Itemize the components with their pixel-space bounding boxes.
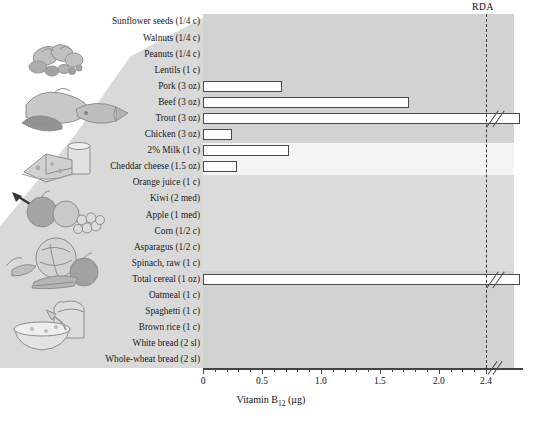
row-baseline	[203, 60, 514, 61]
row-baseline	[203, 237, 514, 238]
category-label: Peanuts (1/4 c)	[4, 50, 200, 59]
category-label: Corn (1/2 c)	[4, 227, 200, 236]
category-label: Brown rice (1 c)	[4, 323, 200, 332]
row-baseline	[203, 269, 514, 270]
category-label: Whole-wheat bread (2 sl)	[4, 355, 200, 364]
row-baseline	[203, 301, 514, 302]
category-label: Kiwi (2 med)	[4, 194, 200, 203]
tick-minor	[462, 368, 463, 372]
category-label: Asparagus (1/2 c)	[4, 243, 200, 252]
row-baseline	[203, 28, 514, 29]
tick-major	[321, 368, 322, 374]
category-label: Walnuts (1/4 c)	[4, 34, 200, 43]
tick-label: 1.5	[374, 376, 386, 386]
tick-major	[262, 368, 263, 374]
category-label: Spaghetti (1 c)	[4, 307, 200, 316]
vitamin-b12-food-chart: RDA Sunflower seeds (1/4 c)Walnuts (1/4 …	[0, 0, 542, 421]
tick-major	[203, 368, 204, 374]
bar-pork-3-oz	[203, 81, 282, 92]
tick-minor	[250, 368, 251, 372]
tick-minor	[415, 368, 416, 372]
band-grains	[203, 271, 514, 368]
category-label: Beef (3 oz)	[4, 98, 200, 107]
band-nuts-and-legumes	[203, 14, 514, 78]
row-baseline	[203, 76, 514, 77]
category-label: Trout (3 oz)	[4, 114, 200, 123]
bar-cheddar-cheese-1-5-oz	[203, 161, 237, 172]
tick-minor	[297, 368, 298, 372]
row-baseline	[203, 317, 514, 318]
bar-trout-3-oz	[203, 113, 520, 124]
tick-minor	[392, 368, 393, 372]
tick-major	[380, 368, 381, 374]
tick-minor	[356, 368, 357, 372]
tick-label: 1.0	[315, 376, 327, 386]
tick-minor	[333, 368, 334, 372]
plot-area	[203, 14, 514, 368]
row-baseline	[203, 349, 514, 350]
rda-label: RDA	[472, 2, 494, 12]
tick-minor	[286, 368, 287, 372]
category-label: Orange juice (1 c)	[4, 178, 200, 187]
tick-minor	[309, 368, 310, 372]
tick-major	[439, 368, 440, 374]
category-label: Total cereal (1 oz)	[4, 275, 200, 284]
category-label: 2% Milk (1 c)	[4, 146, 200, 155]
category-label: Apple (1 med)	[4, 211, 200, 220]
category-label: Pork (3 oz)	[4, 82, 200, 91]
category-label: Chicken (3 oz)	[4, 130, 200, 139]
row-baseline	[203, 333, 514, 334]
x-axis-title-unit: (µg)	[285, 394, 305, 405]
tick-minor	[227, 368, 228, 372]
tick-label: 2.4	[480, 376, 492, 386]
tick-minor	[403, 368, 404, 372]
rda-reference-line	[486, 14, 487, 368]
category-label: White bread (2 sl)	[4, 339, 200, 348]
tick-minor	[238, 368, 239, 372]
category-label: Lentils (1 c)	[4, 66, 200, 75]
tick-minor	[368, 368, 369, 372]
row-baseline	[203, 44, 514, 45]
row-baseline	[203, 365, 514, 366]
category-label: Spinach, raw (1 c)	[4, 259, 200, 268]
nuts-illustration	[16, 40, 108, 84]
row-baseline	[203, 221, 514, 222]
x-axis-title-main: Vitamin B	[237, 394, 278, 405]
tick-label: 2.0	[433, 376, 445, 386]
tick-label: 0	[201, 376, 206, 386]
category-label: Cheddar cheese (1.5 oz)	[4, 162, 200, 171]
row-baseline	[203, 188, 514, 189]
tick-minor	[427, 368, 428, 372]
row-baseline	[203, 253, 514, 254]
tick-label: 0.5	[256, 376, 268, 386]
tick-minor	[474, 368, 475, 372]
tick-minor	[274, 368, 275, 372]
bar-beef-3-oz	[203, 97, 409, 108]
category-label: Oatmeal (1 c)	[4, 291, 200, 300]
x-axis-title: Vitamin B12 (µg)	[0, 394, 542, 408]
tick-minor	[215, 368, 216, 372]
tick-minor	[345, 368, 346, 372]
category-label: Sunflower seeds (1/4 c)	[4, 17, 200, 26]
row-baseline	[203, 205, 514, 206]
bar-total-cereal-1-oz	[203, 274, 520, 285]
bar-chicken-3-oz	[203, 129, 232, 140]
tick-minor	[451, 368, 452, 372]
bar-2-milk-1-c	[203, 145, 289, 156]
